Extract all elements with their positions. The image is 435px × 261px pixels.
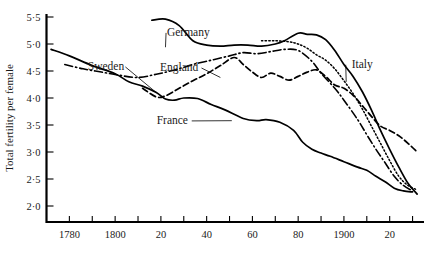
series-label-england: England [160, 61, 199, 74]
y-tick-label: 4·5 [27, 66, 41, 77]
y-tick-label: 4·0 [27, 93, 41, 104]
series-line-germany [152, 19, 417, 194]
x-tick-label: 1800 [105, 229, 126, 240]
y-axis-title: Total fertility per female [3, 64, 15, 172]
x-tick-label: 40 [201, 229, 212, 240]
chart-canvas: 5·55·04·54·03·53·02·52·0 178018002040608… [0, 0, 435, 261]
x-tick-label: 60 [247, 229, 258, 240]
x-tick-label: 20 [384, 229, 395, 240]
leader-line-england [201, 68, 220, 77]
y-tick-label: 3·0 [27, 147, 41, 158]
y-tick-label: 2·0 [27, 201, 41, 212]
x-tick-labels: 1780180020406080190020 [59, 229, 395, 240]
series-label-italy: Italy [352, 58, 373, 71]
series-label-france: France [157, 114, 188, 126]
series-labels: FranceSwedenEnglandGermanyItaly [88, 26, 373, 126]
y-tick-labels: 5·55·04·54·03·53·02·52·0 [27, 12, 41, 212]
x-tick-label: 80 [293, 229, 304, 240]
x-tick-label: 20 [156, 229, 167, 240]
y-tick-label: 3·5 [27, 120, 41, 131]
x-tick-label: 1900 [333, 229, 354, 240]
y-tick-label: 5·5 [27, 12, 41, 23]
fertility-line-chart: 5·55·04·54·03·53·02·52·0 178018002040608… [0, 0, 435, 261]
series-line-italy [262, 41, 418, 190]
series-curves [51, 19, 417, 194]
series-label-germany: Germany [167, 26, 210, 39]
series-label-leaders [125, 33, 346, 121]
x-tick-label: 1780 [59, 229, 80, 240]
y-axis-title-text: Total fertility per female [3, 64, 15, 172]
series-label-sweden: Sweden [88, 60, 125, 72]
y-tick-label: 5·0 [27, 39, 41, 50]
y-tick-label: 2·5 [27, 174, 41, 185]
leader-line-sweden [125, 67, 156, 93]
